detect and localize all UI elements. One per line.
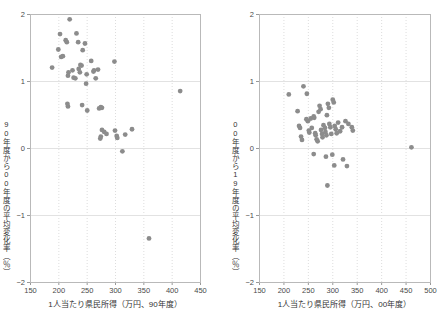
data-point xyxy=(147,236,152,241)
x-axis-label-right: 1人当たり県民所得（万円、00年度） xyxy=(259,301,430,310)
data-point xyxy=(67,17,72,22)
data-point xyxy=(83,41,88,46)
data-point xyxy=(84,81,89,86)
x-tick-label: 500 xyxy=(424,287,437,295)
x-tick-label: 350 xyxy=(351,287,364,295)
data-point xyxy=(112,59,117,64)
data-point xyxy=(345,164,350,169)
chart-panel-left: 150200250300350400450210−1−2 90年度から00年度の… xyxy=(0,0,219,313)
x-tick-label: 300 xyxy=(327,287,340,295)
data-point xyxy=(123,132,128,137)
data-point xyxy=(79,63,84,68)
data-point xyxy=(313,133,318,138)
data-point xyxy=(89,59,94,64)
data-point xyxy=(98,134,103,139)
data-point xyxy=(325,113,330,118)
x-tick-label: 350 xyxy=(138,287,151,295)
y-tick-label: −2 xyxy=(237,279,254,287)
x-tick-label: 200 xyxy=(53,287,66,295)
x-tick-label: 200 xyxy=(278,287,291,295)
y-tick-label: −2 xyxy=(8,279,25,287)
data-point xyxy=(333,127,338,132)
data-point xyxy=(58,32,63,37)
x-tick-label: 450 xyxy=(194,287,207,295)
x-tick-label: 400 xyxy=(166,287,179,295)
data-point xyxy=(324,154,329,159)
data-point xyxy=(301,84,306,89)
y-axis-label-right: 00年度から19年度の平均変化率（％） xyxy=(231,120,239,280)
data-point xyxy=(66,104,71,109)
data-point xyxy=(70,68,75,73)
data-point xyxy=(120,149,125,154)
y-tick-label: 1 xyxy=(237,78,254,86)
data-point xyxy=(307,130,312,135)
data-point xyxy=(66,73,71,78)
data-point xyxy=(312,115,317,120)
data-point xyxy=(286,92,291,97)
data-point xyxy=(324,133,329,138)
data-point xyxy=(56,47,61,52)
data-point xyxy=(50,65,55,70)
data-point xyxy=(84,72,89,77)
data-point xyxy=(325,183,330,188)
data-point xyxy=(318,107,323,112)
x-tick-label: 150 xyxy=(253,287,266,295)
data-point xyxy=(76,40,81,45)
x-tick-label: 150 xyxy=(24,287,37,295)
y-tick-label: 1 xyxy=(8,78,25,86)
data-point xyxy=(304,91,309,96)
data-point xyxy=(298,126,303,131)
data-point xyxy=(115,136,120,141)
data-point xyxy=(178,89,183,94)
data-point xyxy=(309,126,314,131)
data-point xyxy=(300,138,305,143)
data-point xyxy=(311,152,316,157)
data-point xyxy=(80,103,85,108)
data-point xyxy=(80,48,85,53)
data-point xyxy=(341,157,346,162)
data-point xyxy=(350,128,355,133)
data-point xyxy=(409,145,414,150)
data-point xyxy=(329,132,334,137)
data-point xyxy=(295,109,300,114)
data-point xyxy=(130,127,135,132)
data-point xyxy=(113,128,118,133)
data-point xyxy=(331,100,336,105)
data-point xyxy=(346,121,351,126)
x-tick-label: 300 xyxy=(109,287,122,295)
data-point xyxy=(73,76,78,81)
x-tick-label: 250 xyxy=(302,287,315,295)
data-point xyxy=(85,108,90,113)
data-point xyxy=(74,31,79,36)
chart-panel-right: 150200250300350400450500210−1−2 00年度から19… xyxy=(219,0,439,313)
y-axis-label-left: 90年度から00年度の平均変化率（％） xyxy=(2,120,10,280)
scatter-plot-right xyxy=(219,0,439,313)
data-point xyxy=(64,40,69,45)
data-point xyxy=(93,76,98,81)
data-point xyxy=(100,105,105,110)
y-tick-label: 2 xyxy=(8,11,25,19)
data-point xyxy=(77,70,82,75)
data-point xyxy=(96,67,101,72)
x-tick-label: 250 xyxy=(81,287,94,295)
data-point xyxy=(340,125,345,130)
data-point xyxy=(315,139,320,144)
x-axis-label-left: 1人当たり県民所得（万円、90年度） xyxy=(30,301,200,310)
data-point xyxy=(332,163,337,168)
x-tick-label: 450 xyxy=(400,287,413,295)
scatter-plot-left xyxy=(0,0,219,313)
data-point xyxy=(60,54,65,59)
scatter-plot-figure: 150200250300350400450210−1−2 90年度から00年度の… xyxy=(0,0,439,313)
data-point xyxy=(104,132,109,137)
data-point xyxy=(330,152,335,157)
x-tick-label: 400 xyxy=(375,287,388,295)
y-tick-label: 2 xyxy=(237,11,254,19)
data-point xyxy=(325,101,330,106)
data-point xyxy=(336,120,341,125)
data-point xyxy=(328,125,333,130)
data-point xyxy=(326,105,331,110)
